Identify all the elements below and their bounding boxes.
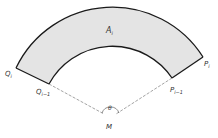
- radius-right-dashed: [116, 78, 172, 114]
- label-inner-left: Qi−1: [36, 88, 50, 97]
- label-outer-left: Qi: [5, 70, 13, 79]
- radius-left-dashed: [49, 84, 104, 114]
- label-inner-right: Pi−1: [170, 86, 183, 95]
- annular-sector-diagram: Ai Qi Qi−1 Pi Pi−1 θ M: [0, 0, 218, 138]
- label-outer-right: Pi: [204, 60, 210, 69]
- label-angle: θ: [108, 104, 112, 111]
- label-center: M: [106, 123, 112, 131]
- region-a-i: [16, 7, 203, 84]
